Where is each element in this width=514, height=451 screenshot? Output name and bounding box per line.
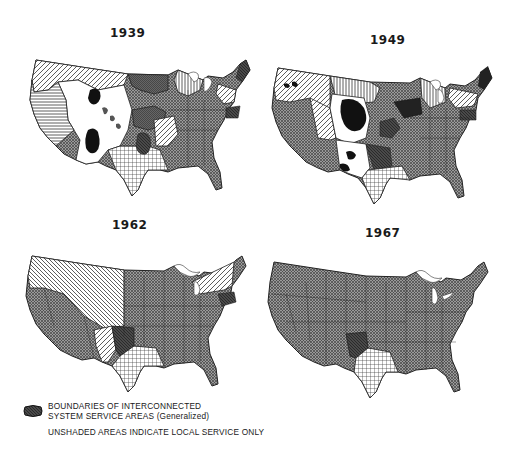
legend-label-line2: SYSTEM SERVICE AREAS (Generalized) [48, 411, 209, 421]
map-1939 [28, 50, 253, 202]
map-1962 [24, 246, 249, 398]
map-title-1939: 1939 [110, 26, 145, 40]
map-title-1962: 1962 [112, 218, 147, 232]
legend-swatch-icon [23, 404, 43, 418]
map-1949 [270, 58, 495, 210]
legend-label-line1: BOUNDARIES OF INTERCONNECTED [48, 401, 201, 411]
map-title-1967: 1967 [365, 226, 400, 240]
map-1967 [266, 252, 491, 404]
legend-note: UNSHADED AREAS INDICATE LOCAL SERVICE ON… [48, 427, 264, 437]
map-title-1949: 1949 [370, 33, 405, 47]
